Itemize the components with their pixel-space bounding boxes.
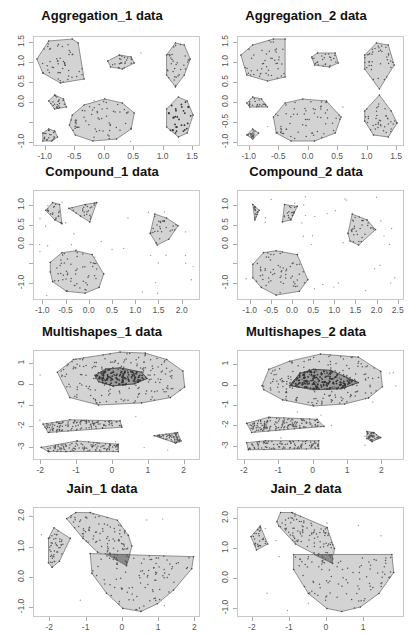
y-tick-label: -2 bbox=[16, 413, 26, 437]
x-tick-mark bbox=[326, 617, 327, 621]
y-tick-mark bbox=[233, 364, 237, 365]
plot-area bbox=[33, 190, 200, 300]
x-tick-label: 0.0 bbox=[77, 305, 101, 315]
x-tick-mark bbox=[49, 617, 50, 621]
y-tick-label: 1.0 bbox=[16, 192, 26, 216]
x-tick-label: -1.0 bbox=[30, 305, 54, 315]
y-tick-label: 0.0 bbox=[220, 565, 230, 589]
y-tick-label: -1.0 bbox=[220, 595, 230, 619]
x-tick-mark bbox=[363, 617, 364, 621]
x-tick-mark bbox=[292, 300, 293, 304]
plot-area bbox=[237, 350, 404, 460]
y-tick-mark bbox=[233, 142, 237, 143]
chart-title: Compound_1 data bbox=[0, 164, 204, 179]
scatter-hull-plot bbox=[238, 508, 403, 616]
y-tick-mark bbox=[233, 263, 237, 264]
cluster-hull-3 bbox=[43, 420, 122, 433]
y-tick-label: -1.0 bbox=[16, 594, 26, 618]
chart-title: Jain_2 data bbox=[204, 481, 408, 496]
x-tick-mark bbox=[86, 617, 87, 621]
y-tick-label: 2.0 bbox=[220, 505, 230, 529]
x-tick-label: 1 bbox=[351, 622, 375, 632]
x-tick-mark bbox=[398, 300, 399, 304]
y-tick-mark bbox=[29, 384, 33, 385]
y-tick-mark bbox=[233, 102, 237, 103]
y-tick-mark bbox=[233, 283, 237, 284]
chart-panel-compound-2-data: Compound_2 data -1.00.00.51.0-1.0-0.50.0… bbox=[204, 158, 408, 316]
x-tick-mark bbox=[112, 460, 113, 464]
x-tick-label: -2 bbox=[240, 622, 264, 632]
x-tick-mark bbox=[308, 146, 309, 150]
y-tick-mark bbox=[233, 578, 237, 579]
chart-panel-compound-1-data: Compound_1 data -1.00.00.51.0-1.0-0.50.0… bbox=[0, 158, 204, 316]
x-tick-mark bbox=[278, 146, 279, 150]
x-tick-mark bbox=[184, 460, 185, 464]
cluster-hull-2 bbox=[108, 55, 135, 69]
y-tick-mark bbox=[29, 205, 33, 206]
x-tick-mark bbox=[182, 300, 183, 304]
scatter-hull-plot bbox=[238, 191, 403, 299]
plot-area bbox=[237, 36, 404, 146]
x-tick-label: 1.0 bbox=[123, 305, 147, 315]
chart-panel-jain-1-data: Jain_1 data -1.00.01.02.0-2-1012 bbox=[0, 475, 204, 633]
y-tick-mark bbox=[29, 82, 33, 83]
x-tick-mark bbox=[381, 460, 382, 464]
y-tick-mark bbox=[233, 405, 237, 406]
x-tick-mark bbox=[244, 460, 245, 464]
x-tick-mark bbox=[45, 146, 46, 150]
y-tick-mark bbox=[29, 102, 33, 103]
y-tick-mark bbox=[29, 405, 33, 406]
chart-panel-multishapes-1-data: Multishapes_1 data -3-2-101-2-1012 bbox=[0, 318, 204, 476]
chart-panel-multishapes-2-data: Multishapes_2 data -3-2-101-2-1012 bbox=[204, 318, 408, 476]
x-tick-mark bbox=[337, 146, 338, 150]
y-tick-mark bbox=[233, 122, 237, 123]
x-tick-mark bbox=[133, 146, 134, 150]
cluster-hull-3 bbox=[167, 43, 191, 87]
y-tick-mark bbox=[29, 363, 33, 364]
cluster-hull-3 bbox=[150, 214, 178, 245]
x-tick-label: -2 bbox=[37, 622, 61, 632]
y-tick-mark bbox=[233, 385, 237, 386]
y-tick-mark bbox=[233, 446, 237, 447]
y-tick-mark bbox=[29, 447, 33, 448]
x-tick-mark bbox=[135, 300, 136, 304]
x-tick-mark bbox=[377, 300, 378, 304]
y-tick-mark bbox=[233, 82, 237, 83]
y-tick-label: -1.0 bbox=[16, 270, 26, 294]
y-tick-mark bbox=[29, 263, 33, 264]
x-tick-label: 2.5 bbox=[386, 305, 408, 315]
x-tick-label: 1.5 bbox=[146, 305, 170, 315]
y-tick-label: 1.5 bbox=[220, 29, 230, 53]
chart-panel-aggregation-1-data: Aggregation_1 data -1.00.00.51.01.5-1.0-… bbox=[0, 0, 204, 158]
chart-title: Compound_2 data bbox=[204, 164, 408, 179]
y-tick-label: -3 bbox=[16, 434, 26, 458]
x-tick-mark bbox=[42, 300, 43, 304]
scatter-hull-plot bbox=[34, 191, 199, 299]
chart-title: Aggregation_1 data bbox=[0, 8, 204, 23]
y-tick-mark bbox=[233, 548, 237, 549]
y-tick-mark bbox=[233, 42, 237, 43]
x-tick-mark bbox=[66, 300, 67, 304]
x-tick-label: 0 bbox=[100, 465, 124, 475]
x-tick-label: 1 bbox=[146, 622, 170, 632]
y-tick-mark bbox=[233, 608, 237, 609]
chart-title: Multishapes_2 data bbox=[204, 324, 408, 339]
scatter-hull-plot bbox=[34, 37, 199, 145]
x-tick-label: -2 bbox=[28, 465, 52, 475]
x-tick-label: -1 bbox=[74, 622, 98, 632]
x-tick-label: 2 bbox=[172, 465, 196, 475]
x-tick-mark bbox=[334, 300, 335, 304]
y-tick-label: 1 bbox=[220, 351, 230, 375]
y-tick-label: 0.0 bbox=[16, 564, 26, 588]
x-tick-mark bbox=[158, 617, 159, 621]
chart-panel-jain-2-data: Jain_2 data -1.00.01.02.0-2-101 bbox=[204, 475, 408, 633]
x-tick-mark bbox=[194, 617, 195, 621]
y-tick-mark bbox=[233, 62, 237, 63]
y-tick-label: -1.0 bbox=[16, 129, 26, 153]
cluster-hull-6 bbox=[365, 95, 397, 137]
scatter-hull-plot bbox=[238, 351, 403, 459]
x-tick-label: 1 bbox=[335, 465, 359, 475]
x-tick-mark bbox=[278, 460, 279, 464]
y-tick-label: 1 bbox=[16, 350, 26, 374]
chart-title: Jain_1 data bbox=[0, 481, 204, 496]
